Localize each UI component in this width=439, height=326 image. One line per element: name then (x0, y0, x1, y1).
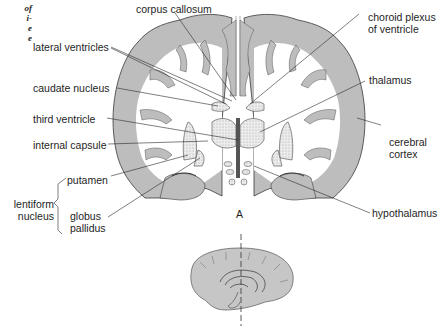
label-hypothalamus: hypothalamus (372, 207, 437, 219)
label-corpus-callosum: corpus callosum (136, 3, 212, 15)
label-line: nucleus (4, 210, 54, 222)
label-lentiform-nucleus: lentiform nucleus (4, 198, 54, 222)
third-ventricle (236, 118, 240, 178)
label-line: lentiform (4, 198, 54, 210)
label-line: globus (70, 210, 106, 222)
label-line: cerebral (389, 136, 427, 148)
coronal-section (113, 14, 365, 200)
label-thalamus: thalamus (369, 74, 412, 86)
label-caudate-nucleus: caudate nucleus (33, 82, 109, 94)
label-cerebral-cortex: cerebral cortex (389, 136, 427, 160)
label-line: choroid plexus (368, 11, 436, 23)
medial-hemisphere-view (191, 234, 293, 326)
thalamus (212, 119, 236, 148)
label-line: pallidus (70, 222, 106, 234)
label-third-ventricle: third ventricle (33, 113, 95, 125)
label-globus-pallidus: globus pallidus (70, 210, 106, 234)
label-choroid-plexus: choroid plexus of ventricle (368, 11, 436, 35)
label-internal-capsule: internal capsule (33, 139, 107, 151)
label-line: cortex (389, 148, 427, 160)
caudate-nucleus (212, 102, 230, 111)
figure-letter: A (236, 208, 243, 220)
label-lateral-ventricles: lateral ventricles (33, 41, 109, 53)
label-putamen: putamen (67, 174, 108, 186)
label-line: of ventricle (368, 23, 436, 35)
